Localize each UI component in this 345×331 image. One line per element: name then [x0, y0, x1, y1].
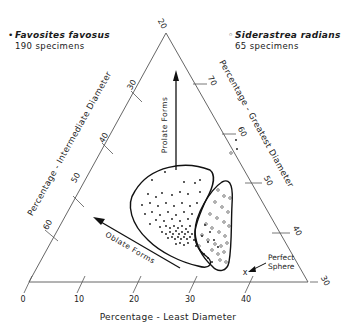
left-tick-label: 40 — [97, 131, 110, 144]
left-tick-label: 60 — [41, 218, 54, 231]
right-axis-label: Percentage - Greatest Diameter — [217, 58, 296, 189]
perfect-sphere-marker: x — [243, 268, 248, 277]
right-tick-label: 60 — [236, 125, 249, 138]
bottom-axis-ticks — [24, 276, 253, 293]
perfect-sphere-label-line1: Perfect — [268, 253, 294, 262]
triangle-frame — [29, 33, 308, 282]
left-tick-label: 50 — [69, 171, 82, 184]
right-tick-label: 70 — [206, 74, 219, 87]
corner-tick-label: 30 — [319, 274, 332, 287]
corner-tick-label: 20 — [156, 17, 169, 30]
bottom-tick-label: 40 — [241, 295, 251, 304]
right-tick-label: 50 — [262, 174, 275, 187]
oblate-forms-label: Oblate Forms — [104, 230, 157, 266]
siderastrea-envelope — [195, 181, 232, 271]
bottom-tick-label: 0 — [20, 295, 25, 304]
ternary-diagram: 0 10 20 30 40 Percentage - Least Diamete… — [0, 0, 345, 331]
left-tick-label: 30 — [125, 78, 138, 91]
bottom-axis-label: Percentage - Least Diameter — [100, 312, 237, 322]
perfect-sphere-label: Perfect Sphere — [268, 253, 297, 271]
prolate-forms-label: Prolate Forms — [160, 97, 169, 154]
bottom-tick-label: 30 — [185, 295, 195, 304]
bottom-tick-label: 10 — [74, 295, 84, 304]
favosites-points — [141, 139, 238, 263]
perfect-sphere-label-line2: Sphere — [268, 262, 295, 271]
prolate-arrow — [173, 70, 179, 170]
bottom-tick-label: 20 — [129, 295, 139, 304]
left-axis-label: Percentage - Intermediate Diameter — [25, 69, 113, 217]
right-tick-label: 40 — [291, 224, 304, 237]
sphere-pointer-arrow — [248, 263, 266, 272]
